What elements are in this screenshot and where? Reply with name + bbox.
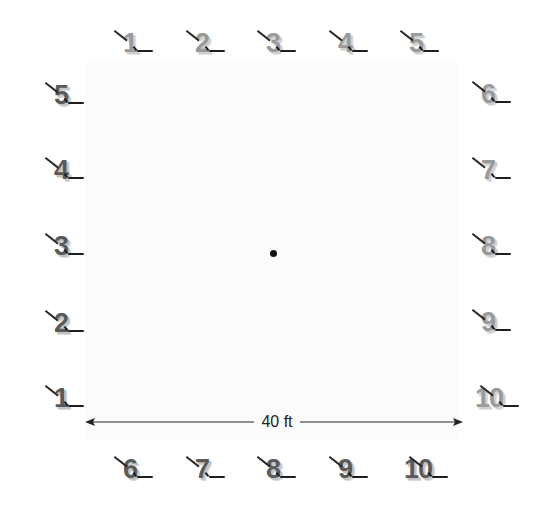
underline-mark-icon xyxy=(68,253,84,255)
right-position-10: 10 xyxy=(467,383,513,417)
underline-mark-icon xyxy=(68,102,84,104)
bottom-position-10: 10 xyxy=(396,454,442,488)
underline-mark-icon xyxy=(68,330,84,332)
underline-mark-icon xyxy=(495,329,511,331)
underline-mark-icon xyxy=(280,476,296,478)
underline-mark-icon xyxy=(423,50,439,52)
left-position-5: 5 xyxy=(44,80,90,114)
underline-mark-icon xyxy=(495,101,511,103)
top-position-3: 3 xyxy=(256,28,302,62)
underline-mark-icon xyxy=(503,405,519,407)
underline-mark-icon xyxy=(137,50,153,52)
center-dot xyxy=(270,250,277,257)
bottom-position-9: 9 xyxy=(328,454,374,488)
underline-mark-icon xyxy=(352,476,368,478)
underline-mark-icon xyxy=(137,476,153,478)
underline-mark-icon xyxy=(209,50,225,52)
right-position-7: 7 xyxy=(471,155,517,189)
top-position-1: 1 xyxy=(113,28,159,62)
underline-mark-icon xyxy=(68,405,84,407)
position-number: 10 xyxy=(396,454,440,484)
right-position-9: 9 xyxy=(471,307,517,341)
top-position-5: 5 xyxy=(399,28,445,62)
top-position-2: 2 xyxy=(185,28,231,62)
underline-mark-icon xyxy=(352,50,368,52)
dimension-line: 40 ft xyxy=(84,412,464,432)
dimension-label: 40 ft xyxy=(254,412,300,432)
underline-mark-icon xyxy=(495,177,511,179)
right-position-8: 8 xyxy=(471,231,517,265)
bottom-position-8: 8 xyxy=(256,454,302,488)
left-position-4: 4 xyxy=(44,155,90,189)
bottom-position-7: 7 xyxy=(185,454,231,488)
underline-mark-icon xyxy=(432,476,448,478)
left-position-2: 2 xyxy=(44,308,90,342)
left-position-3: 3 xyxy=(44,231,90,265)
underline-mark-icon xyxy=(68,177,84,179)
position-number: 10 xyxy=(467,383,511,413)
underline-mark-icon xyxy=(495,253,511,255)
underline-mark-icon xyxy=(209,476,225,478)
top-position-4: 4 xyxy=(328,28,374,62)
bottom-position-6: 6 xyxy=(113,454,159,488)
underline-mark-icon xyxy=(280,50,296,52)
right-position-6: 6 xyxy=(471,79,517,113)
